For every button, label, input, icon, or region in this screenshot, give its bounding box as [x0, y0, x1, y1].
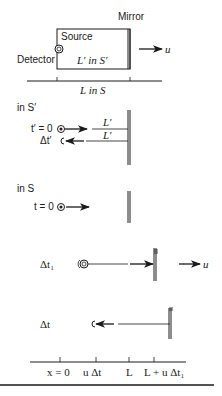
- source-detector-icon: [55, 45, 63, 53]
- dt1-label: Δt₁: [40, 259, 54, 270]
- s-outgoing-ray: [58, 204, 90, 211]
- axis-tick-L-plus-udt1: L + u Δt₁: [144, 367, 184, 378]
- frame-s-label: in S: [17, 184, 34, 194]
- detector-label: Detector: [17, 55, 55, 65]
- axis-tick-udt: u Δt: [83, 367, 101, 378]
- ground-length-label: L in S: [80, 85, 105, 96]
- s-mirror: [128, 191, 130, 223]
- position-axis: [30, 357, 186, 362]
- ground-line: [27, 77, 162, 81]
- axis-tick-x0: x = 0: [47, 367, 70, 378]
- s-prime-mirror: [128, 110, 130, 165]
- mirror-label: Mirror: [118, 12, 144, 22]
- axis-tick-L: L: [126, 367, 133, 378]
- return-time-label: Δt′: [40, 136, 51, 146]
- dt1-velocity-label: u: [203, 259, 209, 270]
- t-prime-zero-label: t′ = 0: [31, 124, 53, 134]
- outgoing-length-label: L′: [103, 117, 112, 128]
- dt-return-ray: [92, 321, 170, 327]
- s-prime-outgoing-ray: [58, 126, 129, 133]
- frame-s-prime-label: in S′: [17, 103, 36, 113]
- dt-label: Δt: [40, 319, 50, 330]
- s-prime-return-ray: [61, 138, 128, 144]
- dt-mirror: [169, 308, 171, 339]
- t-zero-label: t = 0: [34, 202, 54, 212]
- source-label: Source: [61, 32, 93, 42]
- dt1-ray: [78, 260, 153, 268]
- velocity-label: u: [165, 44, 171, 55]
- box-length-label: L′ in S′: [77, 55, 108, 66]
- return-length-label: L′: [103, 130, 112, 141]
